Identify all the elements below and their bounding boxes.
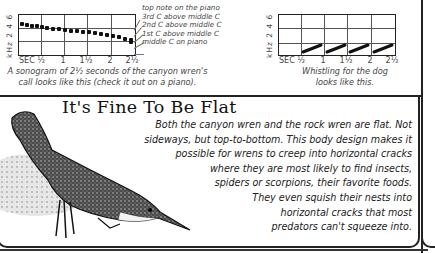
x-axis-ticks: SEC ½ 1 1½ 2 2½ [278,56,396,66]
piano-note-legend: top note on the piano 3rd C above middle… [142,4,221,47]
whistle-plot [278,14,396,56]
y-axis-label: kHz 2 4 6 [5,14,14,58]
body-line: spiders or scorpions, their favorite foo… [112,176,412,191]
body-line: sideways, but top-to-bottom. This body d… [112,133,412,148]
outer-frame-corner [421,200,435,248]
article-title: It's Fine To Be Flat [62,97,237,117]
body-line: predators can't squeeze into. [112,220,412,235]
page-bottom-rule [0,249,428,251]
sonogram-caption: A sonogram of 2½ seconds of the canyon w… [0,66,215,88]
canyon-wren-sonogram: kHz 2 4 6 SEC ½ 1 1½ 2 2½ [0,0,140,68]
body-line: horizontal cracks that most [112,206,412,221]
y-axis-label: kHz 2 4 6 [265,14,274,58]
legend-item: middle C on piano [142,38,221,47]
whistle-strokes [279,15,397,57]
x-axis-ticks: SEC ½ 1 1½ 2 2½ [18,56,136,66]
article-body: Both the canyon wren and the rock wren a… [112,118,412,235]
body-line: possible for wrens to creep into horizon… [112,147,412,162]
body-line: where they are most likely to find insec… [112,162,412,177]
whistle-caption: Whistling for the dog looks like this. [285,66,405,88]
sonogram-plot [18,14,136,56]
dog-whistle-sonogram: kHz 2 4 6 SEC ½ 1 1½ 2 2½ [260,0,400,68]
body-line: Both the canyon wren and the rock wren a… [112,118,412,133]
body-line: They even squish their nests into [112,191,412,206]
